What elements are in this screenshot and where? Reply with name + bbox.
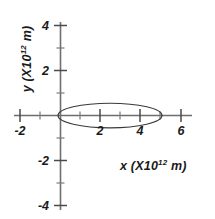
orbit-figure: -2 2 4 6 4 2 -2 -4 x (X1012 m) y (X1012 … (0, 0, 215, 219)
x-axis-label-prefix: x (X10 (120, 159, 158, 173)
x-axis-label: x (X1012 m) (120, 159, 187, 173)
y-tick-label-neg4: -4 (38, 199, 49, 213)
y-tick-label-2: 2 (41, 64, 49, 78)
x-tick-label-6: 6 (178, 124, 186, 138)
y-axis-label-suffix: m) (20, 26, 34, 45)
x-tick-label-neg2: -2 (14, 124, 25, 138)
y-axis-label-exponent: 12 (19, 45, 28, 54)
x-tick-label-2: 2 (96, 124, 104, 138)
y-axis-label-prefix: y (X10 (20, 54, 34, 92)
y-tick-label-neg2: -2 (38, 154, 49, 168)
x-axis-label-exponent: 12 (158, 158, 167, 167)
y-tick-label-4: 4 (41, 19, 49, 33)
x-tick-label-4: 4 (136, 124, 144, 138)
x-axis-label-suffix: m) (167, 159, 186, 173)
y-axis-label: y (X1012 m) (20, 10, 34, 108)
